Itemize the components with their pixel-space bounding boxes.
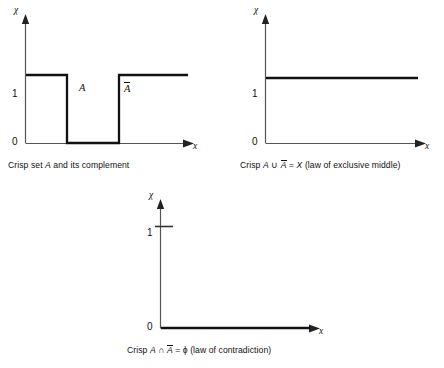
y-axis-arrowhead xyxy=(157,199,164,209)
plot-crisp-intersect: χ x 1 0 xyxy=(100,185,350,345)
caption-intersect-op: ∩ xyxy=(156,345,167,355)
region-label-a-complement: A xyxy=(124,82,130,94)
x-axis-label: x xyxy=(193,141,197,151)
y-tick-label-0: 0 xyxy=(252,136,258,147)
x-axis-label: x xyxy=(425,141,429,151)
y-tick-label-0: 0 xyxy=(12,136,18,147)
chart-crisp-intersect-svg xyxy=(100,185,350,345)
y-tick-label-1: 1 xyxy=(12,88,18,99)
step-function-curve xyxy=(26,75,188,143)
caption-lead: Crisp set xyxy=(8,160,45,170)
caption-tail: and its complement xyxy=(51,160,129,170)
caption-union-op: ∪ xyxy=(269,160,281,170)
y-tick-label-0: 0 xyxy=(147,321,153,332)
caption-tail: (law of exclusive middle) xyxy=(302,160,400,170)
panel-crisp-union: χ x 1 0 Crisp A ∪ A = X (law of exclusiv… xyxy=(222,0,444,184)
caption-equals: = xyxy=(173,345,183,355)
y-tick-label-1: 1 xyxy=(147,227,153,238)
y-axis-label: χ xyxy=(149,190,153,200)
caption-lead: Crisp xyxy=(240,160,263,170)
plot-crisp-set: χ x 1 0 A A xyxy=(0,0,222,160)
region-label-a: A xyxy=(79,82,85,93)
panel-crisp-set: χ x 1 0 A A Crisp set A and its compleme… xyxy=(0,0,222,184)
x-axis-label: x xyxy=(319,326,323,336)
y-axis-label: χ xyxy=(14,5,18,15)
chart-crisp-set-svg xyxy=(0,0,222,160)
caption-crisp-union: Crisp A ∪ A = X (law of exclusive middle… xyxy=(240,160,401,170)
caption-tail: (law of contradiction) xyxy=(188,345,272,355)
y-axis-arrowhead xyxy=(22,14,29,24)
y-axis-arrowhead xyxy=(262,14,269,24)
plot-crisp-union: χ x 1 0 xyxy=(222,0,444,160)
caption-crisp-intersect: Crisp A ∩ A = ϕ (law of contradiction) xyxy=(127,345,271,355)
panel-crisp-intersect: χ x 1 0 Crisp A ∩ A = ϕ (law of contradi… xyxy=(100,185,350,368)
caption-equals: = xyxy=(287,160,297,170)
y-axis-label: χ xyxy=(254,5,258,15)
caption-crisp-set: Crisp set A and its complement xyxy=(8,160,129,170)
caption-lead: Crisp xyxy=(127,345,150,355)
y-tick-label-1: 1 xyxy=(252,88,258,99)
